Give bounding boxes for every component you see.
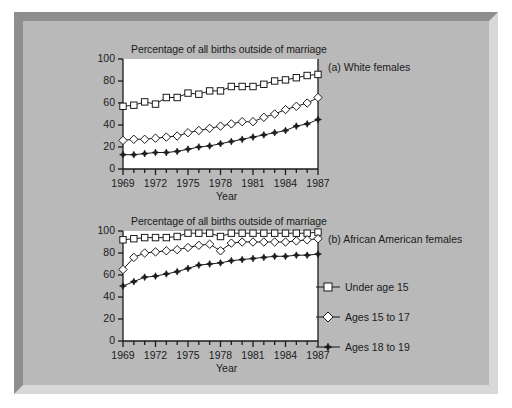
x-axis-tick-label: 1984 [272, 177, 300, 189]
legend-key-filled-dot [315, 339, 341, 355]
y-axis-tick-label: 100 [75, 52, 115, 64]
y-axis-tick-label: 40 [75, 118, 115, 130]
y-axis-tick-label: 60 [75, 268, 115, 280]
x-axis-tick-label: 1987 [304, 177, 332, 189]
legend-label-ages-15-to-17: Ages 15 to 17 [345, 311, 410, 323]
y-axis-tick-label: 80 [75, 246, 115, 258]
chart-legend: Under age 15 Ages 15 to 17 Ages 18 to 19 [315, 279, 465, 365]
y-axis-tick-label: 0 [75, 162, 115, 174]
x-axis-tick-label: 1984 [272, 349, 300, 361]
legend-item-under-age-15: Under age 15 [315, 279, 465, 299]
x-axis-tick-label: 1981 [239, 349, 267, 361]
x-axis-tick-label: 1981 [239, 177, 267, 189]
legend-key-open-square [315, 279, 341, 295]
x-axis-tick-label: 1975 [174, 177, 202, 189]
y-axis-tick-label: 20 [75, 312, 115, 324]
legend-key-open-diamond [315, 309, 341, 325]
x-axis-tick-label: 1972 [142, 349, 170, 361]
y-axis-tick-label: 20 [75, 140, 115, 152]
legend-item-ages-15-to-17: Ages 15 to 17 [315, 309, 465, 329]
chart-panel-white-females: Percentage of all births outside of marr… [23, 23, 489, 205]
panel-b-xaxis-title: Year [216, 362, 237, 374]
y-axis-tick-label: 40 [75, 290, 115, 302]
y-axis-tick-label: 0 [75, 334, 115, 346]
figure-canvas: Percentage of all births outside of marr… [23, 21, 489, 385]
figure-frame: Percentage of all births outside of marr… [14, 12, 498, 394]
x-axis-tick-label: 1972 [142, 177, 170, 189]
x-axis-tick-label: 1969 [109, 177, 137, 189]
y-axis-tick-label: 100 [75, 224, 115, 236]
legend-item-ages-18-to-19: Ages 18 to 19 [315, 339, 465, 359]
y-axis-tick-label: 60 [75, 96, 115, 108]
legend-label-under-age-15: Under age 15 [345, 281, 409, 293]
x-axis-tick-label: 1969 [109, 349, 137, 361]
legend-label-ages-18-to-19: Ages 18 to 19 [345, 341, 410, 353]
x-axis-tick-label: 1978 [207, 349, 235, 361]
x-axis-tick-label: 1978 [207, 177, 235, 189]
y-axis-tick-label: 80 [75, 74, 115, 86]
x-axis-tick-label: 1975 [174, 349, 202, 361]
